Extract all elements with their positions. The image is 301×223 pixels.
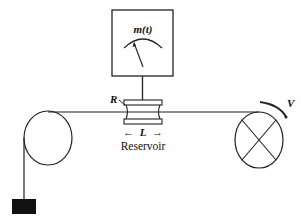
left-pulley — [12, 111, 72, 214]
meter: m(t) — [112, 10, 173, 100]
left-pulley-wheel — [24, 111, 72, 165]
right-wheel: V — [235, 97, 296, 168]
length-arrow-right: → — [152, 126, 163, 138]
velocity-arrow-tip — [285, 116, 288, 119]
reservoir-bottom-flange — [124, 119, 162, 124]
radius-label: R — [109, 93, 117, 105]
reservoir-label: Reservoir — [121, 140, 166, 152]
diagram-canvas: m(t) R ← L → Reservoir V — [0, 0, 301, 223]
velocity-arc — [260, 102, 286, 117]
hanging-weight — [12, 199, 36, 214]
reservoir-top-flange — [124, 100, 162, 105]
velocity-label: V — [287, 97, 296, 109]
length-arrow-left: ← — [123, 126, 134, 138]
length-label: L — [139, 126, 147, 138]
meter-label: m(t) — [134, 23, 153, 36]
reservoir: R ← L → Reservoir — [109, 93, 166, 152]
